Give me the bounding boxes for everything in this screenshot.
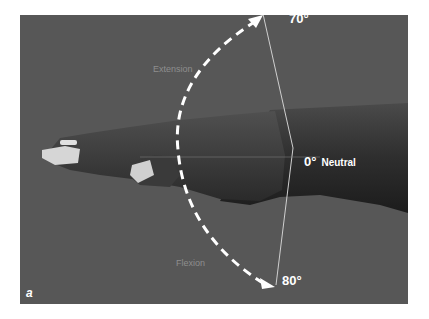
- arrowhead-down-icon: [260, 278, 275, 289]
- figure-letter: a: [26, 286, 33, 300]
- nail-highlight: [60, 140, 77, 145]
- neutral-label: 0°Neutral: [304, 152, 356, 170]
- extension-label: Extension: [153, 64, 193, 74]
- flexion-label: Flexion: [176, 258, 205, 268]
- flexion-angle-label: 80°: [282, 273, 302, 288]
- extension-angle-label: 70°: [289, 15, 309, 26]
- figure-panel: 70° Extension 0°Neutral Flexion 80° a: [20, 15, 408, 304]
- neutral-angle: 0°: [304, 154, 316, 169]
- hand-shape: [50, 111, 285, 201]
- fingernail-index: [42, 146, 80, 165]
- neutral-word: Neutral: [321, 157, 355, 168]
